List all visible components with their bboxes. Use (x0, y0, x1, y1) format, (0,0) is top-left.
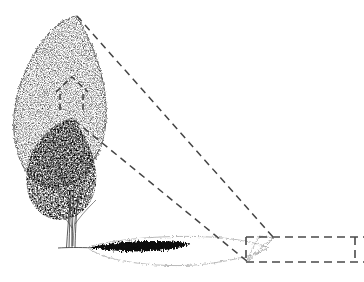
ground-shadow (90, 241, 190, 251)
figure-root (0, 0, 364, 282)
tree-shade-diagram (0, 0, 364, 282)
ground-outline (88, 236, 268, 265)
upper-projection-line (77, 16, 273, 237)
dashed-rectangle (246, 237, 364, 262)
projected-wedge (246, 236, 274, 262)
